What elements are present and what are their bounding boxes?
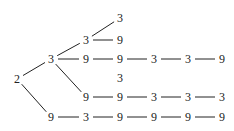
tree-edge (56, 64, 82, 92)
tree-node: 3 (185, 90, 191, 104)
tree-node: 9 (185, 110, 191, 124)
tree-node: 9 (48, 110, 54, 124)
tree-node: 9 (117, 52, 123, 66)
tree-node: 3 (219, 90, 225, 104)
tree-edge (92, 22, 114, 36)
tree-edge (23, 63, 45, 76)
tree-node: 3 (83, 110, 89, 124)
tree-diagram: 2333999339399333939999 (0, 0, 234, 131)
tree-node: 3 (48, 52, 54, 66)
tree-node: 3 (83, 33, 89, 47)
tree-node: 9 (83, 90, 89, 104)
tree-node: 3 (185, 52, 191, 66)
tree-node: 9 (117, 110, 123, 124)
tree-node: 9 (117, 90, 123, 104)
tree-node: 9 (151, 110, 157, 124)
tree-edge (57, 43, 80, 55)
tree-node: 3 (117, 71, 123, 85)
tree-node: 3 (151, 90, 157, 104)
tree-root-node: 2 (14, 72, 20, 86)
tree-node: 9 (83, 52, 89, 66)
tree-node: 9 (219, 110, 225, 124)
tree-node: 9 (219, 52, 225, 66)
tree-edge (22, 84, 47, 112)
tree-node: 3 (151, 52, 157, 66)
tree-node: 3 (117, 11, 123, 25)
tree-nodes: 2333999339399333939999 (14, 11, 225, 124)
tree-node: 9 (117, 33, 123, 47)
